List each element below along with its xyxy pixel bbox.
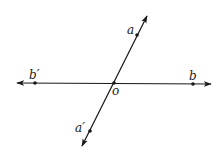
point-a (135, 33, 139, 37)
label-o: o (112, 84, 119, 98)
intersecting-lines-diagram: a a′ b′ b o (0, 0, 222, 157)
label-a: a (127, 23, 134, 37)
label-b: b (189, 69, 197, 83)
label-b-prime: b′ (29, 68, 40, 82)
label-a-prime: a′ (75, 121, 85, 135)
point-a-prime (88, 129, 92, 133)
